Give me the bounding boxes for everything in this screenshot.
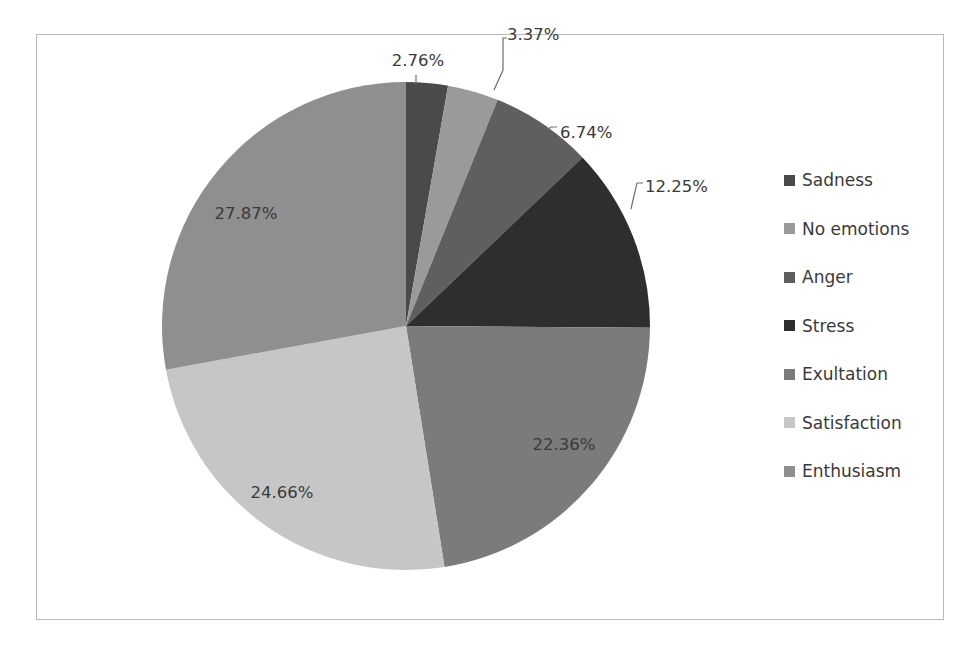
leader-line	[547, 127, 557, 130]
legend-item-sadness: Sadness	[784, 164, 909, 196]
legend-swatch-icon	[784, 417, 795, 428]
legend-item-no-emotions: No emotions	[784, 213, 909, 245]
legend-item-exultation: Exultation	[784, 358, 909, 390]
data-label-enthusiasm: 27.87%	[215, 204, 278, 223]
legend-item-stress: Stress	[784, 310, 909, 342]
legend-label: Stress	[802, 316, 854, 336]
legend-label: Enthusiasm	[802, 461, 901, 481]
legend: Sadness No emotions Anger Stress Exultat…	[784, 164, 909, 504]
legend-swatch-icon	[784, 320, 795, 331]
legend-label: Exultation	[802, 364, 888, 384]
legend-item-enthusiasm: Enthusiasm	[784, 455, 909, 487]
pie-slices	[162, 82, 650, 570]
legend-swatch-icon	[784, 369, 795, 380]
legend-swatch-icon	[784, 223, 795, 234]
legend-label: No emotions	[802, 219, 909, 239]
leader-line	[494, 38, 507, 90]
pie-slice-enthusiasm	[162, 82, 406, 370]
data-label-exultation: 22.36%	[533, 435, 596, 454]
pie-slice-exultation	[406, 326, 650, 567]
data-label-satisfaction: 24.66%	[251, 483, 314, 502]
leader-line	[631, 183, 643, 209]
data-label-sadness: 2.76%	[392, 51, 444, 70]
legend-item-satisfaction: Satisfaction	[784, 407, 909, 439]
pie-slice-satisfaction	[166, 326, 445, 570]
legend-swatch-icon	[784, 175, 795, 186]
data-label-stress: 12.25%	[645, 177, 708, 196]
legend-label: Sadness	[802, 170, 873, 190]
legend-label: Anger	[802, 267, 853, 287]
legend-swatch-icon	[784, 272, 795, 283]
legend-label: Satisfaction	[802, 413, 902, 433]
legend-swatch-icon	[784, 466, 795, 477]
legend-item-anger: Anger	[784, 261, 909, 293]
data-label-anger: 6.74%	[560, 123, 612, 142]
data-label-no-emotions: 3.37%	[507, 25, 559, 44]
